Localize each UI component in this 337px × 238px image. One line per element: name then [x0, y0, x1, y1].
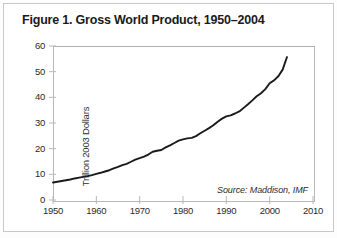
y-tick-label: 60 [23, 40, 45, 51]
x-tick-label: 2010 [296, 205, 330, 216]
x-tick-label: 1960 [79, 205, 113, 216]
y-tick-label: 30 [23, 117, 45, 128]
x-tick-label: 1990 [209, 205, 243, 216]
tick-marks [49, 46, 313, 204]
y-tick-label: 0 [23, 194, 45, 205]
y-tick-label: 40 [23, 91, 45, 102]
y-tick-label: 50 [23, 66, 45, 77]
x-tick-label: 1970 [123, 205, 157, 216]
x-tick-label: 2000 [253, 205, 287, 216]
x-tick-label: 1950 [36, 205, 70, 216]
y-tick-label: 20 [23, 143, 45, 154]
data-line-gross-world-product [53, 57, 287, 183]
y-tick-label: 10 [23, 168, 45, 179]
figure-container: Figure 1. Gross World Product, 1950–2004… [0, 0, 337, 238]
x-tick-label: 1980 [166, 205, 200, 216]
chart-canvas [0, 0, 337, 238]
